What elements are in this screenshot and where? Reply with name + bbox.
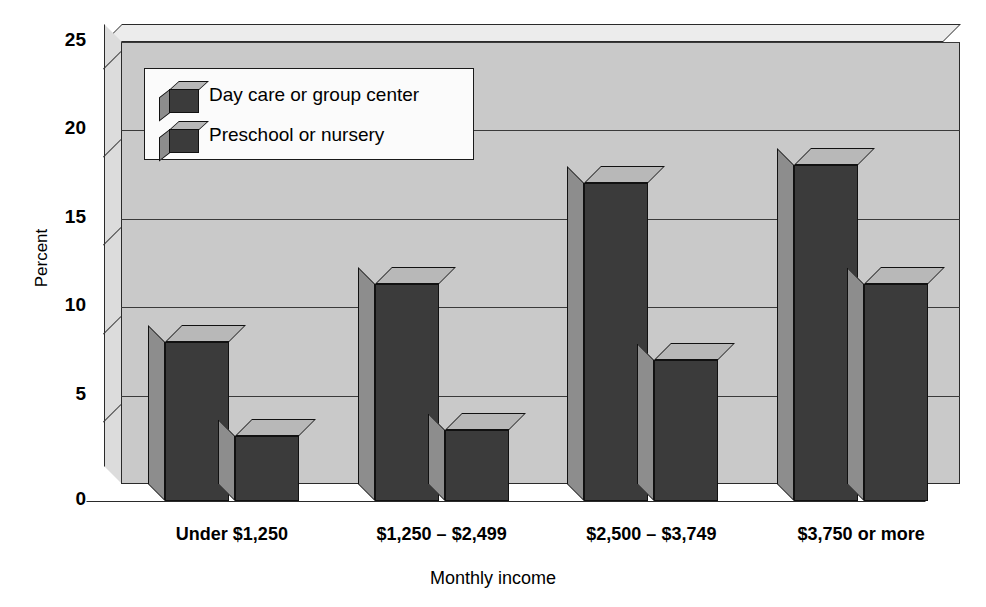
gridline (121, 42, 960, 43)
bar-front-face (235, 436, 299, 501)
bar-chart: 0510152025 Under $1,250$1,250 – $2,499$2… (0, 0, 986, 607)
x-tick-label: $1,250 – $2,499 (332, 524, 552, 545)
x-tick-label: Under $1,250 (122, 524, 342, 545)
legend-item: Preschool or nursery (159, 115, 384, 155)
y-axis-label: Percent (32, 198, 52, 318)
bar-front-face (654, 360, 718, 501)
y-tick-label: 25 (26, 29, 86, 51)
bar-front-face (445, 430, 509, 501)
cube-3d-icon (159, 121, 205, 153)
bar-preschool (654, 343, 718, 501)
cube-3d-icon (159, 81, 205, 113)
bar-preschool (235, 419, 299, 501)
bar-side-face (358, 267, 375, 501)
x-tick-label: $2,500 – $3,749 (541, 524, 761, 545)
bar-side-face (148, 325, 165, 501)
bar-side-face (567, 166, 584, 501)
bar-front-face (864, 284, 928, 501)
bar-side-face (847, 267, 864, 501)
y-tick-label: 0 (26, 488, 86, 510)
plot-top-cap (104, 24, 961, 42)
x-tick-label: $3,750 or more (751, 524, 971, 545)
bar-preschool (445, 413, 509, 501)
legend-item-label: Preschool or nursery (209, 124, 384, 146)
legend-item-label: Day care or group center (209, 84, 419, 106)
bar-preschool (864, 267, 928, 501)
y-tick-label: 20 (26, 117, 86, 139)
plot-left-wall (104, 24, 122, 484)
x-axis-label: Monthly income (0, 568, 986, 589)
bar-side-face (777, 148, 794, 501)
chart-legend: Day care or group center Preschool or nu… (144, 68, 474, 160)
legend-item: Day care or group center (159, 75, 419, 115)
bar-side-face (637, 343, 654, 501)
y-tick-label: 5 (26, 383, 86, 405)
